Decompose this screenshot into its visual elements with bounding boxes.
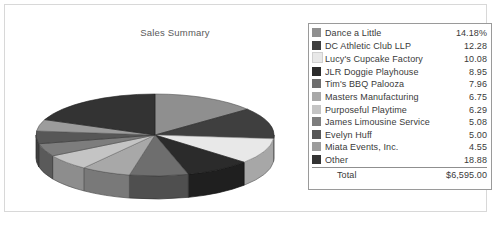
legend-item-label: Masters Manufacturing [325,91,441,104]
legend-item-value: 18.88 [441,154,487,167]
legend-item[interactable]: Dance a Little14.18% [312,27,487,40]
legend-item-label: JLR Doggie Playhouse [325,66,441,79]
legend-color-swatch [312,41,321,50]
legend-item-label: DC Athletic Club LLP [325,40,441,53]
legend-item-label: Tim's BBQ Palooza [325,78,441,91]
legend-item-value: 12.28 [441,40,487,53]
legend-swatch-cell [312,104,325,117]
legend-total-label: Total [325,167,441,182]
legend-table: Dance a Little14.18%DC Athletic Club LLP… [312,27,487,182]
pie-slice-wall [129,174,188,199]
legend-item-label: Purposeful Playtime [325,104,441,117]
legend-color-swatch [312,130,321,139]
legend-color-swatch [312,67,321,76]
legend-item[interactable]: JLR Doggie Playhouse8.95 [312,66,487,79]
pie-chart-svg [19,77,301,207]
legend-item-value: 5.00 [441,129,487,142]
legend-item-value: 6.29 [441,104,487,117]
legend-item[interactable]: Other18.88 [312,154,487,167]
legend-color-swatch [312,142,321,151]
legend-total-value: $6,595.00 [441,167,487,182]
legend-color-swatch [312,155,321,164]
legend-item[interactable]: DC Athletic Club LLP12.28 [312,40,487,53]
legend-item[interactable]: James Limousine Service5.08 [312,116,487,129]
legend-item-label: Other [325,154,441,167]
legend-item-label: Evelyn Huff [325,129,441,142]
legend-item[interactable]: Masters Manufacturing6.75 [312,91,487,104]
legend-color-swatch [312,105,321,114]
legend-item[interactable]: Evelyn Huff5.00 [312,129,487,142]
legend-swatch-cell [312,52,325,66]
report-frame: Sales Summary Dance a Little14.18%DC Ath… [4,4,487,212]
legend-item[interactable]: Purposeful Playtime6.29 [312,104,487,117]
legend-item-value: 7.96 [441,78,487,91]
legend-item[interactable]: Lucy's Cupcake Factory10.08 [312,52,487,66]
legend-item-value: 14.18% [441,27,487,40]
legend-swatch-cell [312,129,325,142]
page-title: Sales Summary [65,27,285,38]
chart-screenshot: Sales Summary Dance a Little14.18%DC Ath… [0,0,501,225]
legend-item[interactable]: Miata Events, Inc.4.55 [312,141,487,154]
legend-rows: Dance a Little14.18%DC Athletic Club LLP… [312,27,487,182]
legend-item[interactable]: Tim's BBQ Palooza7.96 [312,78,487,91]
legend-color-swatch [312,52,323,63]
legend-item-value: 6.75 [441,91,487,104]
pie-top-face [36,94,274,176]
legend-item-value: 10.08 [441,52,487,66]
legend-color-swatch [312,28,321,37]
legend-swatch-cell [312,27,325,40]
legend-color-swatch [312,92,321,101]
legend-swatch-cell [312,91,325,104]
legend-color-swatch [312,117,321,126]
legend-swatch-cell [312,40,325,53]
legend-total-row: Total$6,595.00 [312,167,487,182]
legend-swatch-cell [312,116,325,129]
legend-item-value: 5.08 [441,116,487,129]
legend-swatch-cell [312,78,325,91]
legend-item-value: 8.95 [441,66,487,79]
legend-item-label: James Limousine Service [325,116,441,129]
legend-item-value: 4.55 [441,141,487,154]
legend-box: Dance a Little14.18%DC Athletic Club LLP… [308,23,492,190]
legend-swatch-cell [312,141,325,154]
legend-total-spacer [312,167,325,182]
legend-color-swatch [312,79,321,88]
legend-swatch-cell [312,154,325,167]
legend-item-label: Lucy's Cupcake Factory [325,52,441,66]
legend-item-label: Dance a Little [325,27,441,40]
legend-item-label: Miata Events, Inc. [325,141,441,154]
legend-swatch-cell [312,66,325,79]
pie-chart [19,77,301,207]
